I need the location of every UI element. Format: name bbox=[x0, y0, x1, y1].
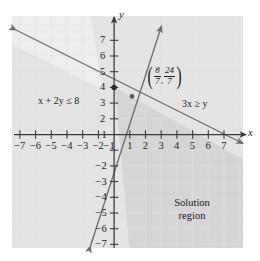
y-tick-label--5: −5 bbox=[96, 208, 107, 219]
y-axis-label: y bbox=[119, 10, 124, 21]
y-tick-label--4: −4 bbox=[96, 192, 107, 203]
point-label-close-paren: ) bbox=[177, 66, 182, 86]
y-tick-label-2: 2 bbox=[100, 114, 105, 125]
x-tick-label--6: −6 bbox=[30, 141, 41, 152]
y-tick-label--7: −7 bbox=[96, 239, 107, 250]
y-tick-label--3: −3 bbox=[96, 177, 107, 188]
inequality-label-left: x + 2y ≤ 8 bbox=[38, 96, 79, 106]
x-tick-label--4: −4 bbox=[61, 141, 72, 152]
x-tick-label--5: −5 bbox=[46, 141, 57, 152]
x-tick-label--7: −7 bbox=[14, 141, 25, 152]
point-label-open-paren: ( bbox=[148, 66, 153, 86]
point-y-intercept-marker bbox=[111, 85, 116, 90]
x-tick-label-2: 2 bbox=[143, 141, 148, 152]
y-tick-label-1: 1 bbox=[102, 130, 107, 141]
x-tick-label-1: 1 bbox=[127, 141, 132, 152]
y-tick-label-3: 3 bbox=[100, 98, 105, 109]
x-tick-label--1: −1 bbox=[104, 141, 115, 152]
y-tick-label-4: 4 bbox=[100, 82, 105, 93]
x-tick-label--2: −2 bbox=[93, 141, 104, 152]
y-tick-label--6: −6 bbox=[96, 224, 107, 235]
x-axis-label: x bbox=[248, 128, 253, 139]
y-tick-label--2: −2 bbox=[96, 161, 107, 172]
x-tick-label-3: 3 bbox=[158, 141, 163, 152]
solution-region-label: Solution region bbox=[163, 196, 221, 222]
y-tick-label-5: 5 bbox=[100, 67, 105, 78]
x-tick-label-5: 5 bbox=[190, 141, 195, 152]
point-label-y-fraction: 24 7 bbox=[164, 66, 175, 85]
point-label-x-numerator: 8 bbox=[154, 66, 161, 75]
intersection-point-label: ( 8 7 , 24 7 ) bbox=[146, 66, 183, 86]
x-tick-label--3: −3 bbox=[77, 141, 88, 152]
y-tick-label-7: 7 bbox=[100, 35, 105, 46]
point-label-y-numerator: 24 bbox=[164, 66, 175, 75]
inequality-label-right: 3x ≥ y bbox=[182, 99, 208, 109]
solution-region-line1: Solution bbox=[163, 196, 221, 209]
point-label-y-denominator: 7 bbox=[166, 77, 173, 86]
solution-region-line2: region bbox=[163, 209, 221, 222]
x-tick-label-4: 4 bbox=[174, 141, 179, 152]
axes-and-lines-overlay bbox=[0, 0, 260, 261]
point-intersection-marker bbox=[130, 94, 135, 99]
inequality-graph-figure: x y −7 −6 −5 −4 −3 −2 −1 1 2 3 4 5 6 7 7… bbox=[0, 0, 260, 261]
x-tick-label-6: 6 bbox=[206, 141, 211, 152]
x-tick-label-7: 7 bbox=[221, 141, 226, 152]
y-tick-label-6: 6 bbox=[100, 51, 105, 62]
